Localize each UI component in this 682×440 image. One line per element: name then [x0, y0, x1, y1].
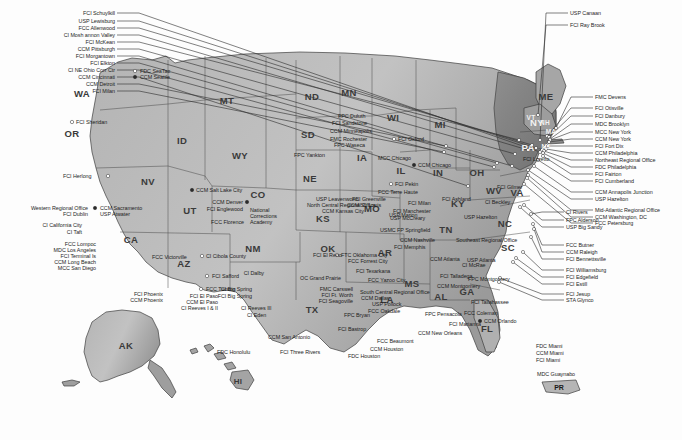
callout-label: FPC Alderson — [566, 217, 599, 223]
callout-leader-line — [534, 166, 593, 192]
state-label-ak: AK — [119, 340, 133, 351]
facility-label: FCC Beaumont — [377, 338, 414, 344]
callout-label: USP Lewisburg — [79, 18, 115, 24]
facility-label: USP Atwater — [100, 211, 130, 217]
facility-label: CI Big Spring — [221, 286, 252, 292]
state-label-nm: NM — [245, 243, 260, 254]
facility-marker — [466, 184, 469, 187]
state-label-nv: NV — [141, 176, 155, 187]
facility-marker — [526, 168, 529, 171]
callout-label: FCI McKean — [86, 39, 115, 45]
puerto-rico-label: PR — [554, 384, 564, 391]
callout-label: FCI Fairton — [595, 171, 621, 177]
callout-leader-line — [520, 207, 564, 227]
facility-label: FDC Houston — [348, 353, 380, 359]
facility-label: CCM Miami — [536, 350, 564, 356]
callout-leader-line — [117, 13, 540, 152]
state-label-sd: SD — [301, 129, 315, 140]
callout-label: FCC Butner — [566, 242, 594, 248]
facility-label: CCM Minneapolis — [330, 128, 372, 134]
callout-label: FCI Milan — [92, 88, 115, 94]
facility-label: FCC Yazoo City — [368, 277, 405, 283]
facility-label: FCI Pekin — [395, 181, 418, 187]
callout-label: CCM Detroit — [86, 81, 115, 87]
facility-label: FCI Big Spring — [218, 293, 252, 299]
callout-label: FCI Estill — [566, 281, 587, 287]
facility-label: USP Hazelton — [464, 214, 497, 220]
facility-label: MCC Chicago — [378, 155, 411, 161]
facility-marker — [205, 274, 208, 277]
facility-marker — [199, 287, 202, 290]
facility-label: CCM St. Louis — [347, 202, 381, 208]
callout-label: MCC New York — [595, 129, 631, 135]
facility-marker — [70, 120, 73, 123]
facility-marker — [133, 69, 136, 72]
facility-marker — [521, 250, 524, 253]
facility-label: CI Beckley — [485, 199, 510, 205]
state-label-pa: PA — [521, 142, 534, 153]
facility-label: OC Grand Prairie — [300, 275, 341, 281]
facility-label: CI California City — [42, 222, 82, 228]
facility-label: CCM Kansas City — [322, 208, 364, 214]
facility-label: FCI Three Rivers — [280, 349, 320, 355]
callout-leader-line — [516, 258, 564, 277]
callout-label: FCI Bennettsville — [566, 256, 606, 262]
facility-label: CCM San Antonio — [268, 334, 310, 340]
facility-label: CI Reeves I & II — [181, 305, 218, 311]
callout-label: FDC Philadelphia — [595, 164, 636, 170]
callout-label: FCC Allenwood — [78, 25, 115, 31]
facility-label: Southeast Regional Office — [456, 237, 517, 243]
facility-label: CCM Atlanta — [430, 256, 460, 262]
callout-label: STA Glynco — [566, 297, 594, 303]
callout-label: CCM Philadelphia — [595, 150, 637, 156]
facility-label: CCM Seattle — [140, 74, 170, 80]
callout-label: USP Hazelton — [595, 196, 628, 202]
callout-leader-line — [117, 56, 512, 166]
facility-label: USP Pollock — [372, 301, 401, 307]
state-label-al: AL — [434, 291, 447, 302]
facility-label: FCC Forrest City — [348, 258, 388, 264]
state-label-tn: TN — [439, 224, 452, 235]
facility-label: FPC Montgomery — [468, 276, 510, 282]
state-label-id: ID — [177, 135, 187, 146]
facility-label: CI McRae — [462, 262, 486, 268]
facility-label: CI Reeves III — [241, 305, 272, 311]
facility-label: FCI Ashland — [442, 196, 471, 202]
callout-label: Mid-Atlantic Regional Office — [595, 207, 660, 213]
facility-label: FCC Terre Haute — [378, 189, 418, 195]
facility-label: CCM Chicago — [418, 162, 451, 168]
callout-leader-line — [538, 25, 568, 115]
callout-label: CI Mosh annon Valley — [64, 32, 115, 38]
facility-marker — [514, 256, 517, 259]
facility-label: FCI Dublin — [63, 211, 88, 217]
callout-label: CI NE Ohio Corr Ctr — [68, 67, 115, 73]
callout-label: FCI Danbury — [595, 113, 625, 119]
facility-marker — [190, 188, 193, 191]
callout-leader-line — [546, 149, 593, 153]
callout-label: USP Big Sandy — [566, 224, 602, 230]
facility-label: CCM Orlando — [484, 318, 516, 324]
facility-marker — [510, 164, 513, 167]
facility-marker — [522, 203, 525, 206]
callout-label: FCI Schuylkill — [83, 10, 115, 16]
callout-label: FMC Devens — [595, 94, 626, 100]
facility-label: FCI Marianna — [449, 321, 481, 327]
facility-label: FCI El Reno — [313, 252, 342, 258]
facility-label: FCI Sandstone — [332, 120, 367, 126]
state-label-ca: CA — [124, 234, 138, 245]
callout-label: FCI Cumberland — [595, 178, 634, 184]
facility-marker — [444, 144, 447, 147]
callout-leader-line — [117, 77, 468, 186]
state-label-wy: WY — [232, 150, 248, 161]
facility-label: CI Taft — [67, 229, 82, 235]
facility-marker — [538, 138, 541, 141]
facility-label: CCM Salt Lake City — [196, 187, 242, 193]
state-label-vt: VT — [527, 114, 536, 121]
facility-marker — [513, 152, 516, 155]
facility-label: FCI Bastrop — [338, 326, 366, 332]
facility-marker — [526, 173, 529, 176]
facility-label: FCI Tallahassee — [471, 299, 509, 305]
facility-label: FCI Miami — [536, 357, 560, 363]
facility-label: FCI Texarkana — [356, 268, 390, 274]
state-label-ia: IA — [357, 152, 367, 163]
